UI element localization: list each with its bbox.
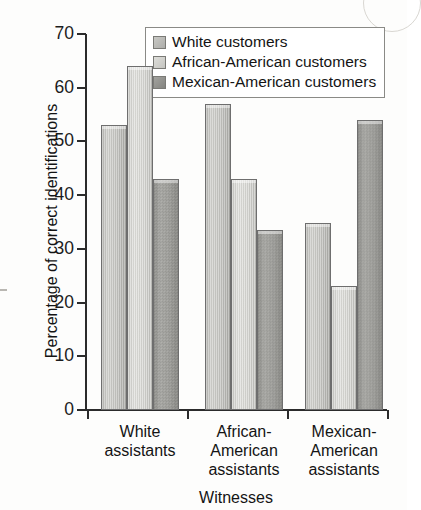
chart-legend: White customers African-American custome…	[145, 27, 385, 98]
x-axis-group-label: African-Americanassistants	[189, 422, 299, 479]
x-axis-title: Witnesses	[85, 489, 387, 507]
bar-highlight	[154, 180, 178, 183]
bar-highlight	[258, 231, 282, 234]
bar	[357, 120, 383, 410]
x-axis-tick	[287, 410, 289, 419]
bar	[331, 286, 357, 410]
bar	[231, 179, 257, 410]
legend-item: African-American customers	[153, 52, 377, 72]
x-axis-group-label: Whiteassistants	[85, 422, 195, 460]
legend-swatch-white-customers	[153, 36, 166, 49]
legend-label: White customers	[172, 34, 287, 50]
bar-highlight	[306, 224, 330, 227]
x-axis-group-label: Mexican-Americanassistants	[289, 422, 399, 479]
bar-highlight	[206, 105, 230, 108]
y-axis-tick	[77, 409, 86, 411]
bar	[257, 230, 283, 410]
bar-highlight	[332, 287, 356, 290]
x-axis-label-line: American	[289, 441, 399, 460]
bar-highlight	[232, 180, 256, 183]
x-axis-tick	[387, 410, 389, 419]
bar	[305, 223, 331, 410]
x-axis-label-line: American	[189, 441, 299, 460]
x-axis-label-line: Mexican-	[289, 422, 399, 441]
x-axis-label-line: assistants	[289, 460, 399, 479]
x-axis-label-line: assistants	[85, 441, 195, 460]
x-axis-label-line: African-	[189, 422, 299, 441]
x-axis-label-line: White	[85, 422, 195, 441]
legend-item: Mexican-American customers	[153, 72, 377, 92]
legend-label: African-American customers	[172, 54, 367, 70]
bar-highlight	[358, 121, 382, 124]
bar-highlight	[102, 126, 126, 129]
legend-item: White customers	[153, 32, 377, 52]
bar	[205, 104, 231, 410]
bar	[127, 66, 153, 410]
y-axis-tick	[77, 248, 86, 250]
y-axis-title: Percentage of correct identifications	[43, 81, 61, 381]
y-axis-tick	[77, 302, 86, 304]
y-axis-tick	[77, 194, 86, 196]
bar-highlight	[128, 67, 152, 70]
y-axis-tick-label: 0	[32, 401, 74, 419]
bar	[153, 179, 179, 410]
bar	[101, 125, 127, 410]
y-axis-tick-label: 70	[32, 25, 74, 43]
y-axis-tick	[77, 140, 86, 142]
y-axis-tick	[77, 33, 86, 35]
legend-swatch-african-american-customers	[153, 56, 166, 69]
legend-swatch-mexican-american-customers	[153, 76, 166, 89]
y-axis-tick	[77, 87, 86, 89]
x-axis-tick	[187, 410, 189, 419]
x-axis-tick	[87, 410, 89, 419]
x-axis-label-line: assistants	[189, 460, 299, 479]
scan-artifact-edge-mark	[0, 289, 7, 291]
y-axis-tick	[77, 355, 86, 357]
legend-label: Mexican-American customers	[172, 74, 376, 90]
